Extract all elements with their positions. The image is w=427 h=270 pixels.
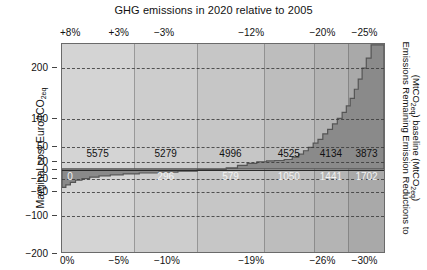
remaining-emissions-label: 4525 xyxy=(278,148,300,159)
y-tick-label: −200 xyxy=(25,248,48,259)
y-tick-mark xyxy=(52,191,57,192)
emission-reductions-label: 0 xyxy=(67,171,73,182)
gridline-−100 xyxy=(62,216,384,217)
y-tick-label: 200 xyxy=(31,62,48,73)
y-tick-mark xyxy=(52,178,57,179)
top-tick-label: +8% xyxy=(60,27,80,38)
y-tick-mark xyxy=(52,215,57,216)
x-tick-label: 0% xyxy=(60,255,74,266)
x-tick-label: −26% xyxy=(309,255,335,266)
x-tick-label: −5% xyxy=(109,255,129,266)
x-tick-label: −30% xyxy=(352,255,378,266)
emission-reductions-label: 1702 xyxy=(355,171,377,182)
gridline-20 xyxy=(62,162,384,163)
top-tick-label: −12% xyxy=(238,27,264,38)
y-tick-mark xyxy=(52,169,57,170)
chart-title: GHG emissions in 2020 relative to 2005 xyxy=(0,4,427,16)
y-tick-mark xyxy=(52,146,57,147)
y-tick-label: 100 xyxy=(31,113,48,124)
y-tick-label: −20 xyxy=(31,173,48,184)
y-tick-mark xyxy=(52,161,57,162)
emission-reductions-label: 296 xyxy=(157,171,174,182)
chart-root: GHG emissions in 2020 relative to 2005 M… xyxy=(0,0,427,270)
curve-path xyxy=(62,45,384,188)
remaining-emissions-label: 5575 xyxy=(87,148,109,159)
remaining-emissions-label: 4996 xyxy=(219,148,241,159)
emission-reductions-label: 1050 xyxy=(278,171,300,182)
y-tick-label: −100 xyxy=(25,209,48,220)
x-tick-label: −19% xyxy=(238,255,264,266)
gridline-−50 xyxy=(62,192,384,193)
y-tick-mark xyxy=(52,118,57,119)
gridline-100 xyxy=(62,119,384,120)
y-tick-label: 50 xyxy=(37,140,48,151)
remaining-emissions-label: 4134 xyxy=(320,148,342,159)
right-axis-title-wrap: Emissions Remaining Emission Reductions … xyxy=(389,18,423,258)
top-tick-label: +3% xyxy=(109,27,129,38)
plot-area: 5575527949964525413438730296579105014411… xyxy=(61,43,385,253)
top-tick-label: −3% xyxy=(154,27,174,38)
y-tick-label: −50 xyxy=(31,186,48,197)
top-tick-label: −25% xyxy=(352,27,378,38)
y-tick-mark xyxy=(52,67,57,68)
y-tick-mark xyxy=(52,253,57,254)
x-tick-label: −10% xyxy=(154,255,180,266)
emission-reductions-label: 1441 xyxy=(320,171,342,182)
emission-reductions-label: 579 xyxy=(222,171,239,182)
remaining-emissions-label: 5279 xyxy=(155,148,177,159)
remaining-emissions-label: 3873 xyxy=(355,148,377,159)
y-axis-ticks: 20010050200−20−50−100−200 xyxy=(0,43,57,253)
gridline-200 xyxy=(62,68,384,69)
right-axis-title-line2: (MtCO2eq) baseline (MtCO2eq) xyxy=(411,13,422,263)
top-tick-label: −20% xyxy=(309,27,335,38)
